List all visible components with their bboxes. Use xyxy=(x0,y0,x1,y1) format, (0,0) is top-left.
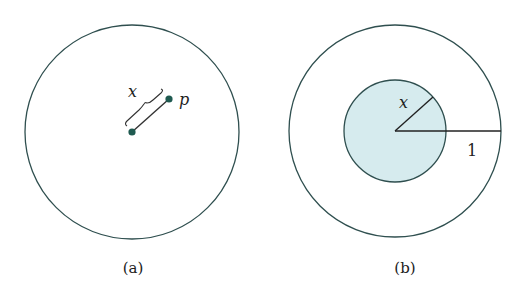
distance-label-x: x xyxy=(128,82,137,101)
panel-b: x 1 (b) xyxy=(289,25,501,277)
inner-radius-label-x: x xyxy=(399,93,408,112)
point-p-dot xyxy=(165,95,172,102)
center-dot xyxy=(128,128,135,135)
segment-center-to-p xyxy=(132,99,169,132)
caption-a: (a) xyxy=(123,259,144,277)
point-label-p: p xyxy=(179,90,189,109)
diagram-canvas: x p (a) x 1 (b) xyxy=(0,0,527,296)
outer-radius-label-1: 1 xyxy=(467,141,477,160)
panel-a: x p (a) xyxy=(25,25,239,277)
caption-b: (b) xyxy=(394,259,415,277)
